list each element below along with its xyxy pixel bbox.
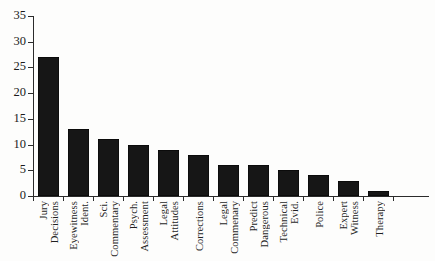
x-label: JuryDecisions: [34, 201, 64, 259]
bar-slot: [64, 16, 94, 196]
x-label-line: Assessment: [139, 201, 150, 252]
x-label: PredictDangerous: [244, 201, 274, 259]
x-label: ExpertWitness: [334, 201, 364, 259]
bar: [158, 150, 179, 196]
x-label-slot: EyewitnessIdent.: [64, 201, 94, 259]
x-label-line: Dangerous: [259, 201, 270, 247]
x-label-slot: LegalAttitudes: [154, 201, 184, 259]
x-label-line: Evid.: [289, 201, 300, 224]
x-label: TechnicalEvid.: [274, 201, 304, 259]
x-label-line: Predict: [248, 201, 259, 231]
x-label: LegalAttitudes: [154, 201, 184, 259]
y-tick-25: [28, 67, 33, 68]
y-tick-30: [28, 42, 33, 43]
x-label-line: Psych.: [128, 201, 139, 229]
x-label: Corrections: [184, 201, 214, 259]
x-label-slot: Psych.Assessment: [124, 201, 154, 259]
x-label-slot: Therapy: [364, 201, 394, 259]
x-label-slot: Sci.Commentary: [94, 201, 124, 259]
bar: [98, 139, 119, 196]
bar-slot: [94, 16, 124, 196]
y-tick-label: 15: [2, 112, 26, 125]
x-label-slot: Corrections: [184, 201, 214, 259]
bar-slot: [274, 16, 304, 196]
x-label-line: Sci.: [98, 201, 109, 217]
x-label: Sci.Commentary: [94, 201, 124, 259]
x-label-slot: PredictDangerous: [244, 201, 274, 259]
bar-chart: 05101520253035 JuryDecisionsEyewitnessId…: [0, 0, 435, 261]
x-label: LegalCommenary: [214, 201, 244, 259]
y-tick-35: [28, 16, 33, 17]
bar: [248, 165, 269, 196]
x-label-line: Eyewitness: [68, 201, 79, 250]
bar: [368, 191, 389, 196]
y-tick-label: 20: [2, 86, 26, 99]
y-tick-label: 30: [2, 35, 26, 48]
x-label-line: Expert: [338, 201, 349, 230]
x-label: Psych.Assessment: [124, 201, 154, 259]
bar-slot: [244, 16, 274, 196]
x-label-line: Witness: [349, 201, 360, 235]
y-tick-label: 25: [2, 60, 26, 73]
x-label: Police: [304, 201, 334, 259]
x-label-line: Decisions: [49, 201, 60, 243]
x-label-line: Attitudes: [169, 201, 180, 240]
x-label-line: Jury: [38, 201, 49, 219]
x-label: Therapy: [364, 201, 394, 259]
y-tick-label: 10: [2, 138, 26, 151]
x-label-slot: ExpertWitness: [334, 201, 364, 259]
y-tick-15: [28, 119, 33, 120]
x-label-line: Commentary: [109, 201, 120, 257]
x-label-line: Commenary: [229, 201, 240, 254]
bar: [68, 129, 89, 196]
bar: [188, 155, 209, 196]
x-label-slot: Police: [304, 201, 334, 259]
bar-series: [34, 16, 430, 196]
x-label-line: Corrections: [194, 201, 205, 251]
y-tick-10: [28, 145, 33, 146]
x-label-line: Legal: [218, 201, 229, 225]
y-tick-label: 35: [2, 9, 26, 22]
bar-slot: [304, 16, 334, 196]
y-tick-label: 5: [2, 163, 26, 176]
bar-slot: [184, 16, 214, 196]
x-label-line: Technical: [278, 201, 289, 243]
bar: [38, 57, 59, 196]
bar: [218, 165, 239, 196]
x-label-line: Legal: [158, 201, 169, 225]
bar: [128, 145, 149, 196]
x-label-line: Ident.: [79, 201, 90, 226]
x-label: EyewitnessIdent.: [64, 201, 94, 259]
bar: [338, 181, 359, 196]
bar-slot: [214, 16, 244, 196]
bar-slot: [364, 16, 394, 196]
x-label-slot: JuryDecisions: [34, 201, 64, 259]
x-label-slot: LegalCommenary: [214, 201, 244, 259]
x-label-line: Police: [314, 201, 325, 228]
bar: [308, 175, 329, 196]
y-tick-label: 0: [2, 189, 26, 202]
x-axis-category-labels: JuryDecisionsEyewitnessIdent.Sci.Comment…: [34, 201, 430, 261]
y-tick-5: [28, 170, 33, 171]
bar: [278, 170, 299, 196]
bar-slot: [154, 16, 184, 196]
bar-slot: [334, 16, 364, 196]
bar-slot: [34, 16, 64, 196]
x-label-line: Therapy: [374, 201, 385, 237]
x-label-slot: TechnicalEvid.: [274, 201, 304, 259]
bar-slot: [124, 16, 154, 196]
y-tick-20: [28, 93, 33, 94]
